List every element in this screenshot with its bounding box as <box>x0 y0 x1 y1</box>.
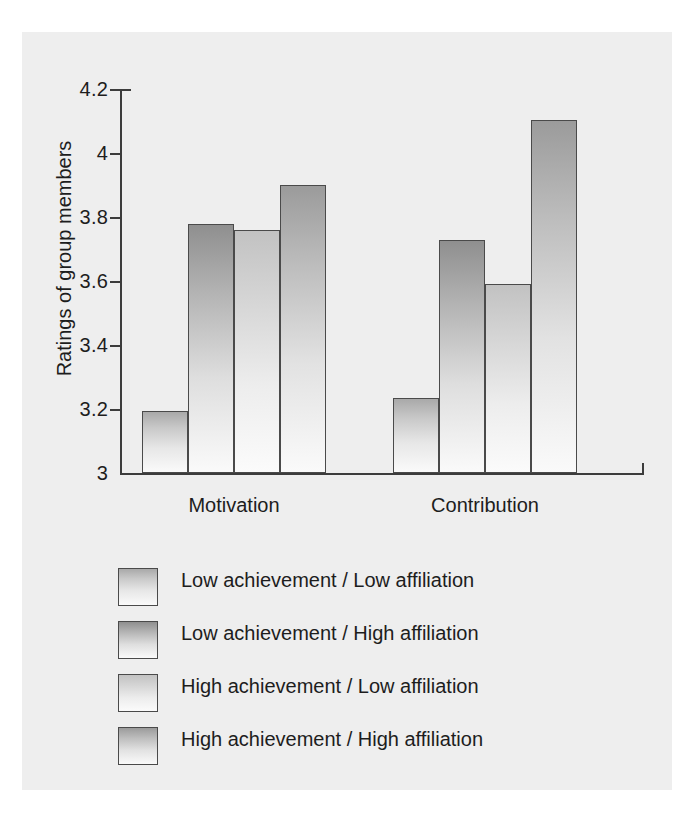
figure-card: 4.2 4 3.8 3.6 3.4 3.2 3 Ratings of group… <box>22 32 672 790</box>
bar-motivation-high-achievement-low-affiliation <box>234 230 280 473</box>
legend-item-high-achievement-high-affiliation: High achievement / High affiliation <box>118 723 618 776</box>
legend-item-high-achievement-low-affiliation: High achievement / Low affiliation <box>118 670 618 723</box>
legend-swatch-icon-series-4 <box>118 727 158 765</box>
y-axis-title: Ratings of group members <box>53 99 76 419</box>
legend-item-low-achievement-high-affiliation: Low achievement / High affiliation <box>118 617 618 670</box>
y-tick-mark-4 <box>110 345 121 347</box>
bar-contribution-high-achievement-low-affiliation <box>485 284 531 473</box>
legend-swatch-icon-series-2 <box>118 621 158 659</box>
x-axis-group-label-motivation: Motivation <box>124 494 344 517</box>
legend-label-series-1: Low achievement / Low affiliation <box>181 569 474 592</box>
x-axis-group-label-contribution: Contribution <box>375 494 595 517</box>
x-axis-right-cap <box>642 463 644 475</box>
legend-swatch-icon-series-1 <box>118 568 158 606</box>
y-tick-mark-0 <box>110 89 121 91</box>
legend-item-low-achievement-low-affiliation: Low achievement / Low affiliation <box>118 564 618 617</box>
y-tick-label-6: 3 <box>38 463 108 483</box>
bar-contribution-low-achievement-low-affiliation <box>393 398 439 473</box>
bar-contribution-low-achievement-high-affiliation <box>439 240 485 473</box>
legend-label-series-4: High achievement / High affiliation <box>181 728 483 751</box>
y-tick-mark-5 <box>110 409 121 411</box>
y-tick-mark-2 <box>110 217 121 219</box>
x-axis-line <box>120 473 644 475</box>
y-tick-mark-1 <box>110 153 121 155</box>
bar-contribution-high-achievement-high-affiliation <box>531 120 577 473</box>
plot-area: 4.2 4 3.8 3.6 3.4 3.2 3 Ratings of group… <box>22 32 672 502</box>
legend: Low achievement / Low affiliation Low ac… <box>118 564 618 776</box>
bar-motivation-low-achievement-high-affiliation <box>188 224 234 473</box>
legend-label-series-3: High achievement / Low affiliation <box>181 675 479 698</box>
legend-swatch-icon-series-3 <box>118 674 158 712</box>
bar-motivation-low-achievement-low-affiliation <box>142 411 188 473</box>
y-axis-top-cap <box>120 89 131 91</box>
y-tick-label-0: 4.2 <box>38 79 108 99</box>
legend-label-series-2: Low achievement / High affiliation <box>181 622 479 645</box>
bar-motivation-high-achievement-high-affiliation <box>280 185 326 473</box>
y-tick-mark-3 <box>110 281 121 283</box>
